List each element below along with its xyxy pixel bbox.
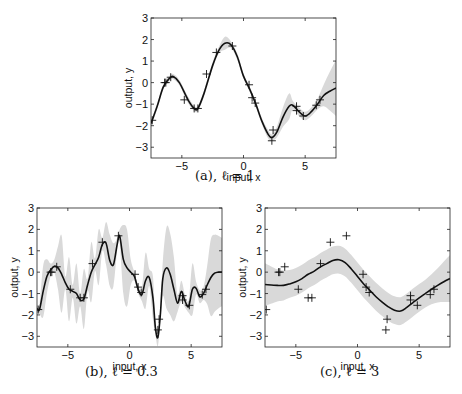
y-tick-label: 1	[256, 245, 262, 257]
caption-a-param: ℓ = 1	[221, 168, 255, 183]
y-tick-label: 3	[28, 202, 34, 214]
y-tick-label: −3	[249, 330, 262, 342]
data-point-marker	[342, 232, 350, 240]
data-point-marker	[308, 294, 316, 302]
y-axis-label: output, y	[236, 257, 248, 298]
y-tick-label: 0	[256, 266, 262, 278]
caption-b-param: ℓ = 0.3	[112, 364, 158, 379]
confidence-band	[151, 37, 336, 141]
confidence-band	[265, 246, 450, 325]
data-point-marker	[148, 116, 156, 124]
plot-area-c	[262, 232, 450, 334]
chart-panel-c: −505−3−2−10123input, xoutput, y	[236, 202, 450, 372]
data-point-marker	[262, 306, 270, 314]
y-axis-label: output, y	[8, 257, 20, 298]
x-tick-label: 5	[302, 160, 308, 172]
y-tick-label: −2	[249, 309, 262, 321]
axes-box	[151, 18, 336, 158]
y-tick-label: −1	[21, 288, 34, 300]
data-point-marker	[281, 263, 289, 271]
y-tick-label: 3	[256, 202, 262, 214]
confidence-band	[37, 222, 222, 346]
y-tick-label: 1	[142, 55, 148, 67]
caption-a: (a), ℓ = 1	[195, 168, 255, 184]
data-point-marker	[326, 238, 334, 246]
caption-c-param: ℓ = 3	[346, 364, 380, 379]
y-axis-label: output, y	[122, 67, 134, 108]
x-tick-label: −5	[176, 160, 189, 172]
y-tick-label: −3	[135, 141, 148, 153]
caption-b: (b), ℓ = 0.3	[85, 364, 158, 380]
y-tick-label: 0	[28, 266, 34, 278]
y-tick-label: 3	[142, 12, 148, 24]
figure-canvas: −505−3−2−10123input, xoutput, y−505−3−2−…	[0, 0, 462, 394]
caption-c-prefix: (c),	[320, 364, 346, 379]
chart-panel-b: −505−3−2−10123input, xoutput, y	[8, 202, 222, 372]
y-tick-label: 1	[28, 245, 34, 257]
caption-c: (c), ℓ = 3	[320, 364, 379, 380]
y-tick-label: 2	[142, 34, 148, 46]
x-tick-label: 5	[416, 349, 422, 361]
caption-b-prefix: (b),	[85, 364, 112, 379]
chart-panel-a: −505−3−2−10123input, xoutput, y	[122, 12, 336, 183]
y-tick-label: 2	[28, 223, 34, 235]
x-tick-label: −5	[290, 349, 303, 361]
y-tick-label: −2	[135, 120, 148, 132]
y-tick-label: 2	[256, 223, 262, 235]
mean-curve	[151, 43, 336, 138]
plot-area-b	[34, 222, 222, 346]
y-tick-label: −1	[249, 288, 262, 300]
data-point-marker	[155, 315, 163, 323]
y-tick-label: −2	[21, 309, 34, 321]
data-point-marker	[382, 326, 390, 334]
plot-area-a	[148, 37, 336, 145]
y-tick-label: 0	[142, 77, 148, 89]
y-tick-label: −1	[135, 98, 148, 110]
caption-a-prefix: (a),	[195, 168, 221, 183]
x-tick-label: 5	[188, 349, 194, 361]
y-tick-label: −3	[21, 330, 34, 342]
x-tick-label: −5	[62, 349, 75, 361]
